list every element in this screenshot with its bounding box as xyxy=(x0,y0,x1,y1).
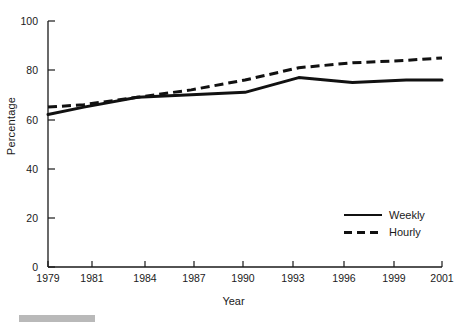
x-tick-label-1990: 1990 xyxy=(223,272,263,284)
x-tick-label-1979: 1979 xyxy=(28,272,68,284)
y-axis-ticks xyxy=(48,21,55,267)
y-tick-label-100: 100 xyxy=(8,15,38,27)
legend-swatch-dashed-icon xyxy=(344,227,382,237)
x-tick-label-1993: 1993 xyxy=(273,272,313,284)
legend-label-weekly: Weekly xyxy=(389,209,425,221)
x-axis-title: Year xyxy=(0,295,467,307)
figure-container: 100 80 60 40 20 0 1979 1981 1984 1987 19… xyxy=(0,0,467,323)
x-tick-label-2001: 2001 xyxy=(422,272,462,284)
legend-item-weekly[interactable]: Weekly xyxy=(344,206,425,223)
x-tick-label-1981: 1981 xyxy=(72,272,112,284)
legend-item-hourly[interactable]: Hourly xyxy=(344,223,425,240)
y-axis-title: Percentage xyxy=(5,66,17,186)
y-tick-label-20: 20 xyxy=(8,212,38,224)
x-tick-label-1987: 1987 xyxy=(174,272,214,284)
legend-swatch-solid-icon xyxy=(344,210,382,220)
x-axis-ticks xyxy=(48,261,442,267)
chart-legend: Weekly Hourly xyxy=(344,206,425,240)
x-tick-label-1996: 1996 xyxy=(324,272,364,284)
x-tick-label-1984: 1984 xyxy=(125,272,165,284)
x-tick-label-1999: 1999 xyxy=(374,272,414,284)
series-line-weekly xyxy=(48,78,442,115)
figure-caption-strip xyxy=(0,314,467,323)
figure-number-badge xyxy=(19,315,95,322)
legend-label-hourly: Hourly xyxy=(389,226,421,238)
